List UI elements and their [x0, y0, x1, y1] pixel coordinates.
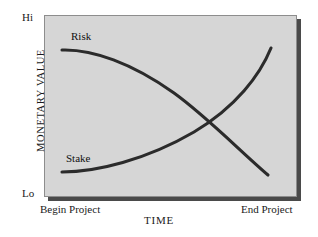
y-axis-tick-high: Hi [22, 12, 33, 23]
y-axis-tick-low: Lo [22, 188, 34, 199]
risk-curve [62, 50, 268, 175]
y-axis-title: MONETARY VALUE [35, 16, 46, 186]
plot-curves [44, 15, 297, 197]
stake-curve [62, 48, 271, 172]
x-axis-title: TIME [0, 214, 318, 226]
series-label-risk: Risk [71, 30, 91, 42]
chart-figure: Risk Stake Hi Lo MONETARY VALUE Begin Pr… [0, 0, 318, 237]
series-label-stake: Stake [66, 152, 90, 164]
